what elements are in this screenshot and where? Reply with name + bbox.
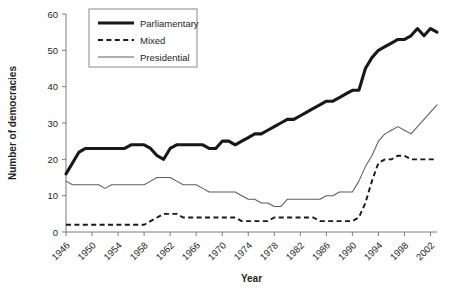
y-axis-ticks <box>62 14 66 232</box>
x-tick-label: 1986 <box>310 240 333 263</box>
series-line-mixed <box>66 156 437 225</box>
legend-label-mixed: Mixed <box>140 35 165 46</box>
x-axis-ticks <box>66 232 430 236</box>
x-tick-label: 1974 <box>231 240 254 263</box>
x-tick-label: 1990 <box>336 240 359 263</box>
x-tick-label: 1994 <box>362 240 385 263</box>
y-tick-label: 30 <box>47 118 58 129</box>
legend-label-parliamentary: Parliamentary <box>140 18 199 29</box>
legend-label-presidential: Presidential <box>140 52 190 63</box>
x-axis-tick-labels: 1946195019541958196219661970197419781982… <box>49 240 436 263</box>
x-tick-label: 1950 <box>75 240 98 263</box>
x-tick-label: 1958 <box>127 240 150 263</box>
y-tick-label: 20 <box>47 154 58 165</box>
series-line-presidential <box>66 105 437 207</box>
x-tick-label: 1954 <box>101 240 124 263</box>
x-tick-label: 1978 <box>257 240 280 263</box>
y-tick-label: 0 <box>53 227 58 238</box>
line-chart: 0102030405060 19461950195419581962196619… <box>0 0 461 290</box>
chart-container: 0102030405060 19461950195419581962196619… <box>0 0 461 290</box>
x-tick-label: 1998 <box>388 240 411 263</box>
x-tick-label: 1946 <box>49 240 72 263</box>
y-tick-label: 50 <box>47 45 58 56</box>
x-tick-label: 1966 <box>179 240 202 263</box>
y-axis-title: Number of democracies <box>7 66 18 180</box>
x-tick-label: 1982 <box>284 240 307 263</box>
y-axis-tick-labels: 0102030405060 <box>47 9 58 238</box>
y-tick-label: 10 <box>47 190 58 201</box>
chart-legend: ParliamentaryMixedPresidential <box>89 9 199 67</box>
x-tick-label: 1962 <box>153 240 176 263</box>
x-tick-label: 2002 <box>414 240 437 263</box>
y-tick-label: 60 <box>47 9 58 20</box>
y-tick-label: 40 <box>47 81 58 92</box>
x-tick-label: 1970 <box>205 240 228 263</box>
x-axis-title: Year <box>241 273 262 284</box>
